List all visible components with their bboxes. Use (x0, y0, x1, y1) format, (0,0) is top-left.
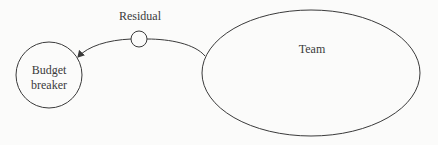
budget-breaker-label-line-2: breaker (31, 78, 67, 92)
edge-residual-to-budget-breaker (78, 39, 131, 57)
team-ellipse (202, 10, 420, 136)
node-budget-breaker: Budget breaker (16, 42, 82, 108)
node-team: Team (202, 10, 420, 136)
residual-circle (131, 31, 147, 47)
team-label: Team (299, 42, 326, 56)
budget-breaker-label-line-1: Budget (32, 63, 67, 77)
node-residual: Residual (119, 9, 162, 47)
residual-label: Residual (119, 9, 162, 23)
edge-team-to-residual (147, 39, 205, 56)
diagram-svg: Residual Budget breaker Team (0, 0, 438, 145)
diagram-canvas: Residual Budget breaker Team (0, 0, 438, 145)
